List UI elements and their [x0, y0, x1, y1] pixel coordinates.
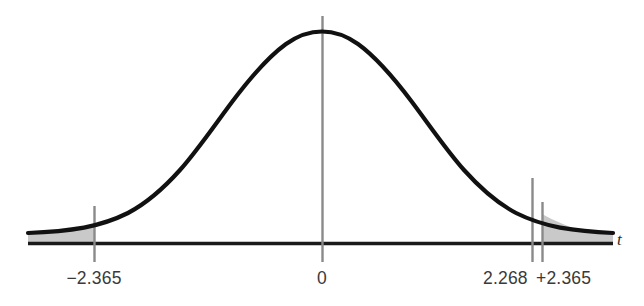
tick-label-test-statistic: 2.268	[483, 268, 531, 289]
tick-label-center: 0	[292, 268, 352, 289]
density-curve	[28, 32, 613, 234]
t-distribution-chart	[0, 0, 644, 306]
t-distribution-figure: −2.365 0 2.268 +2.365 t	[0, 0, 644, 306]
tick-label-left-critical: −2.365	[34, 268, 154, 289]
axis-label-t: t	[617, 230, 622, 250]
tick-label-right-critical: +2.365	[536, 268, 608, 289]
